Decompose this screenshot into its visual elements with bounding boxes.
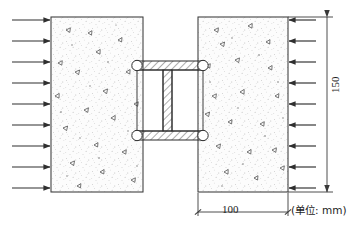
technical-drawing: 150 100 (单位: mm) (0, 0, 363, 233)
load-arrows-right (289, 20, 316, 188)
bolt-bottom-right (198, 130, 208, 140)
web (163, 70, 172, 131)
bolt-top-right (198, 60, 208, 70)
top-flange (137, 61, 203, 70)
vertical-dimension-label: 150 (330, 77, 341, 94)
bolt-bottom-left (132, 130, 142, 140)
units-note: (单位: mm) (291, 205, 347, 216)
bolt-top-left (132, 60, 142, 70)
horizontal-dimension (198, 193, 288, 216)
left-concrete-block (51, 17, 143, 192)
bottom-flange (137, 131, 203, 140)
load-arrows-left (12, 20, 50, 188)
right-concrete-block (198, 17, 288, 192)
horizontal-dimension-label: 100 (222, 204, 239, 215)
drawing-canvas (0, 0, 363, 233)
